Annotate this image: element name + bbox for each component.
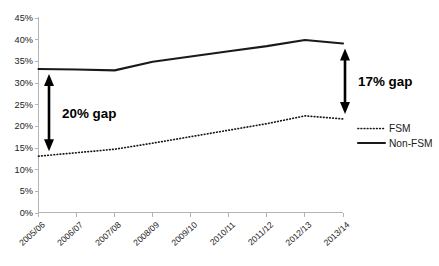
x-tick-label: 2009/10 [169, 219, 199, 247]
y-tick-label: 15% [15, 143, 33, 153]
legend-label-fsm: FSM [389, 123, 411, 134]
right-gap-arrow-head-up [340, 49, 350, 61]
x-tick-label: 2011/12 [246, 219, 275, 247]
y-tick-label: 30% [15, 78, 33, 88]
chart-container: 0%5%10%15%20%25%30%35%40%45% 2005/062006… [0, 0, 439, 266]
legend-label-non-fsm: Non-FSM [389, 138, 433, 149]
left-gap-arrow-head-up [44, 74, 54, 86]
y-tick-label: 0% [20, 208, 33, 218]
series-line-non-fsm [39, 40, 344, 70]
y-axis-tick-marks [35, 18, 39, 213]
y-tick-label: 25% [15, 100, 33, 110]
x-tick-label: 2008/09 [131, 219, 161, 247]
x-tick-label: 2006/07 [55, 219, 85, 247]
left-gap-arrow-head-down [44, 139, 54, 151]
x-tick-label: 2005/06 [17, 219, 47, 247]
right-gap-label: 17% gap [358, 74, 412, 89]
x-tick-label: 2012/13 [283, 219, 313, 247]
y-tick-label: 20% [15, 121, 33, 131]
x-axis-tick-labels: 2005/062006/072007/082008/092009/102010/… [17, 219, 351, 247]
annotation-left-gap: 20% gap [44, 74, 116, 151]
y-tick-label: 35% [15, 56, 33, 66]
x-tick-label: 2010/11 [208, 219, 237, 247]
series-line-fsm [39, 116, 344, 156]
y-tick-label: 10% [15, 165, 33, 175]
y-tick-label: 45% [15, 13, 33, 23]
x-tick-label: 2013/14 [322, 219, 352, 247]
annotation-right-gap: 17% gap [340, 49, 412, 114]
y-tick-label: 40% [15, 35, 33, 45]
y-tick-label: 5% [20, 186, 33, 196]
line-chart: 0%5%10%15%20%25%30%35%40%45% 2005/062006… [0, 0, 439, 266]
y-axis-tick-labels: 0%5%10%15%20%25%30%35%40%45% [15, 13, 33, 218]
x-axis-tick-marks [39, 213, 344, 217]
chart-legend: FSM Non-FSM [358, 123, 433, 149]
x-tick-label: 2007/08 [93, 219, 123, 247]
left-gap-label: 20% gap [62, 106, 116, 121]
right-gap-arrow-head-down [340, 102, 350, 114]
